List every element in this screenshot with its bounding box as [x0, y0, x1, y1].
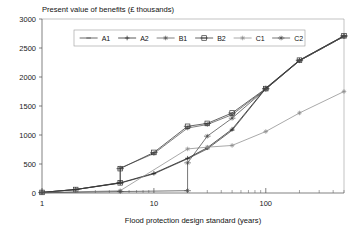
data-point-marker — [263, 129, 268, 134]
y-tick-label: 2500 — [19, 44, 36, 53]
x-axis-tick-labels: 110100 — [40, 199, 272, 208]
data-point-marker — [297, 111, 302, 116]
data-series-group — [38, 34, 347, 195]
legend-label-a1: A1 — [102, 35, 111, 42]
legend-label-c1: C1 — [256, 35, 265, 42]
legend-label-b1: B1 — [179, 35, 188, 42]
y-axis-title: Present value of benefits (£ thousands) — [42, 5, 175, 14]
x-axis-title: Flood protection design standard (years) — [125, 216, 262, 225]
series-line-c1 — [42, 92, 344, 193]
series-c1 — [40, 89, 347, 195]
legend-label-c2: C2 — [294, 35, 303, 42]
y-axis-tick-labels: 050010001500200025003000 — [19, 15, 36, 198]
data-point-marker — [342, 89, 347, 94]
series-b2 — [38, 34, 347, 195]
y-tick-label: 0 — [32, 189, 36, 198]
chart-container: 050010001500200025003000 110100 A1A2B1B2… — [0, 0, 356, 231]
chart-legend: A1A2B1B2C1C2 — [74, 30, 305, 46]
data-point-marker — [184, 161, 191, 166]
data-point-marker — [185, 147, 190, 152]
x-tick-label: 100 — [260, 199, 273, 208]
benefits-line-chart: 050010001500200025003000 110100 A1A2B1B2… — [0, 0, 356, 231]
y-tick-label: 1500 — [19, 102, 36, 111]
y-tick-label: 2000 — [19, 73, 36, 82]
data-point-marker — [184, 188, 191, 193]
y-tick-label: 1000 — [19, 131, 36, 140]
legend-label-a2: A2 — [140, 35, 149, 42]
x-tick-label: 10 — [150, 199, 158, 208]
data-point-marker — [230, 143, 235, 148]
legend-label-b2: B2 — [217, 35, 226, 42]
data-point-marker — [152, 171, 157, 176]
y-tick-label: 3000 — [19, 15, 36, 24]
y-tick-label: 500 — [23, 160, 36, 169]
x-tick-label: 1 — [40, 199, 44, 208]
